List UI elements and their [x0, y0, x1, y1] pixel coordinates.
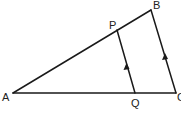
label-p: P: [109, 19, 116, 31]
label-c: C: [177, 91, 181, 103]
triangle-diagram: A B C P Q: [0, 0, 181, 115]
label-a: A: [2, 91, 10, 103]
segment-pq: [117, 30, 135, 93]
parallel-arrow-pq-icon: [124, 63, 130, 70]
parallel-arrow-bc-icon: [162, 53, 168, 60]
label-b: B: [153, 0, 160, 11]
label-q: Q: [131, 97, 140, 109]
segment-bc: [151, 10, 176, 93]
segment-ab: [13, 10, 151, 93]
